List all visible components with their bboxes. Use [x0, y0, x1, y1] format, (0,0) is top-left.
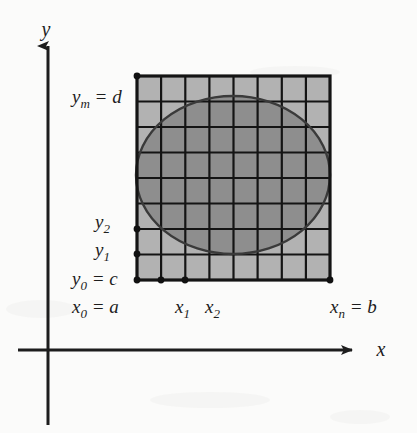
label-x-one-sub: 1	[183, 306, 190, 321]
tick-dot-origin	[134, 277, 141, 284]
tick-dot-y-two	[134, 226, 141, 233]
label-y-two: y2	[93, 211, 110, 236]
label-y-two-sub: 2	[103, 221, 110, 236]
label-x-zero-rest: = a	[87, 296, 119, 317]
label-x-one: x1	[174, 296, 190, 321]
label-y-zero: y0 = c	[70, 268, 118, 293]
tick-dot-y-max	[134, 73, 141, 80]
label-x-n-rest: = b	[345, 296, 377, 317]
label-y-one-sub: 1	[103, 249, 110, 264]
axis-label-y: y	[40, 18, 51, 41]
label-x-two: x2	[204, 296, 220, 321]
label-y-zero-var: y	[70, 268, 81, 289]
label-y-max-sub: m	[80, 96, 89, 111]
label-y-zero-rest: = c	[87, 268, 118, 289]
tick-dot-y-one	[134, 251, 141, 258]
axis-label-x: x	[376, 338, 386, 360]
label-y-two-var: y	[93, 211, 104, 232]
tick-dot-x-two	[182, 277, 189, 284]
tick-dot-x-n	[327, 277, 334, 284]
label-y-max-var: y	[70, 86, 81, 107]
tick-dot-x-one	[158, 277, 165, 284]
label-x-two-sub: 2	[213, 306, 220, 321]
label-y-one-var: y	[93, 239, 104, 260]
label-y-max: ym = d	[70, 86, 122, 111]
label-y-one: y1	[93, 239, 110, 264]
label-x-n: xn = b	[329, 296, 377, 321]
riemann-grid-figure: ym = d y2 y1 y0 = c x0 = a x1 x2 xn = b …	[0, 0, 417, 433]
label-y-max-rest: = d	[90, 86, 122, 107]
label-x-zero: x0 = a	[71, 296, 119, 321]
